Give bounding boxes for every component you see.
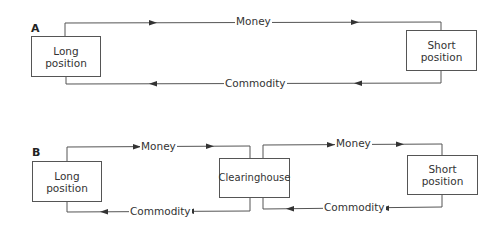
- panel-b-money-right-label: Money: [335, 137, 372, 149]
- arrow-left-icon: [354, 81, 362, 87]
- panel-a-label: A: [31, 22, 40, 35]
- arrow-right-icon: [149, 20, 157, 26]
- panel-a-long-position-box: Long position: [31, 36, 101, 77]
- arrow-left-icon: [100, 209, 108, 215]
- arrow-right-icon: [206, 144, 214, 150]
- arrow-right-icon: [327, 142, 335, 147]
- arrow-left-icon: [149, 81, 157, 87]
- panel-b-long-position-box: Long position: [32, 161, 102, 202]
- panel-a-short-position-box: Short position: [406, 30, 477, 71]
- arrow-right-icon: [396, 142, 404, 148]
- panel-b-label: B: [32, 146, 40, 159]
- arrow-right-icon: [351, 20, 359, 26]
- panel-b-clearinghouse-box: Clearinghouse: [219, 158, 290, 198]
- panel-a-money-label: Money: [235, 15, 272, 27]
- arrow-left-icon: [286, 206, 294, 212]
- panel-b-money-left-label: Money: [140, 140, 177, 152]
- panel-a-commodity-label: Commodity: [224, 77, 287, 89]
- panel-b-commodity-left-label: Commodity: [129, 205, 192, 217]
- panel-b-commodity-right-label: Commodity: [323, 201, 386, 213]
- panel-b-short-position-box: Short position: [407, 155, 478, 195]
